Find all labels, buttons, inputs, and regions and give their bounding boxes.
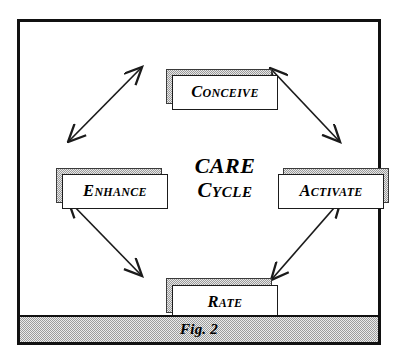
node-activate-face: Activate [278, 174, 384, 209]
node-rate-label: Rate [208, 294, 243, 311]
connector-enhance-conceive [69, 67, 142, 141]
diagram-center-title: CARE Cycle [170, 154, 280, 202]
connector-activate-rate [272, 200, 341, 279]
node-enhance-label: Enhance [83, 183, 147, 200]
node-activate[interactable]: Activate [278, 174, 384, 209]
figure-caption-text: Fig. 2 [180, 321, 218, 338]
node-conceive-face: Conceive [172, 75, 278, 110]
figure-caption-bar: Fig. 2 [20, 315, 378, 342]
connector-rate-enhance [69, 201, 142, 276]
center-title-line1: CARE [170, 154, 280, 179]
figure-frame: Conceive (left side) --> Activate (upper… [17, 19, 381, 345]
node-conceive[interactable]: Conceive [172, 75, 278, 110]
center-title-line2: Cycle [170, 179, 280, 203]
connector-conceive-activate [271, 69, 340, 142]
node-conceive-label: Conceive [191, 84, 258, 101]
node-enhance-face: Enhance [62, 174, 168, 209]
node-activate-label: Activate [299, 183, 362, 200]
diagram-canvas: Conceive (left side) --> Activate (upper… [20, 22, 378, 342]
node-enhance[interactable]: Enhance [62, 174, 168, 209]
